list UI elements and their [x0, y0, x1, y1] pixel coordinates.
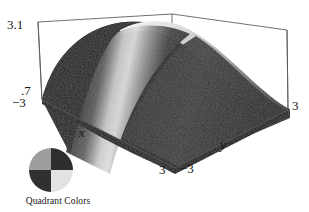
quadrant-swatch-top-left [29, 148, 51, 170]
y-axis-label: y [220, 138, 226, 151]
x-axis-min-tick-label: −3 [12, 96, 26, 109]
x-axis-label: x [79, 126, 85, 139]
z-axis-max-tick-label: 3.1 [7, 18, 23, 31]
quadrant-colors-icon [29, 148, 73, 192]
x-axis-max-tick-label: 3 [159, 163, 166, 176]
legend-caption: Quadrant Colors [10, 196, 106, 206]
quadrant-swatch-top-right [51, 148, 73, 170]
quadrant-swatch-bottom-right [51, 170, 73, 192]
quadrant-swatch-bottom-left [29, 170, 51, 192]
y-axis-max-tick-label: 3 [292, 99, 299, 112]
quadrant-colors-legend: Quadrant Colors [10, 148, 106, 208]
y-axis-min-tick-label: −3 [180, 162, 194, 175]
